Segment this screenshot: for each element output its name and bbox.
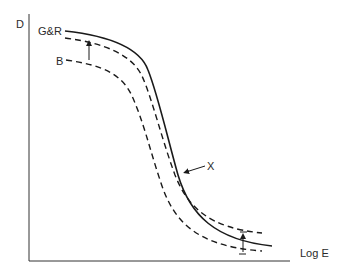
curve-label-gr: G&R: [38, 25, 62, 37]
y-axis-label: D: [16, 18, 24, 30]
curve-b-dashed: [66, 60, 262, 251]
x-axis-label: Log E: [300, 247, 329, 259]
diagram-svg: D Log E G&R B X: [0, 0, 354, 273]
crossover-pointer: [186, 166, 205, 172]
characteristic-curve-diagram: D Log E G&R B X: [0, 0, 354, 273]
curve-gr-solid: [65, 31, 272, 246]
crossover-label: X: [207, 160, 215, 172]
curve-label-b: B: [56, 55, 63, 67]
curve-gr-dashed: [65, 38, 262, 233]
